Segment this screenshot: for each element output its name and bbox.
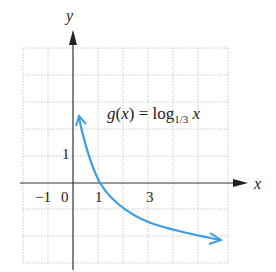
function-label: g(x) = log1/3 x (107, 104, 200, 125)
tick-label-1: 1 (95, 190, 103, 205)
log-curve (79, 118, 220, 240)
tick-label-neg1: −1 (35, 190, 51, 205)
func-body: ) = log (129, 104, 174, 123)
chart-canvas (0, 0, 276, 272)
func-base: 1/3 (174, 113, 188, 125)
func-name: g (107, 104, 116, 123)
func-arg: x (193, 104, 201, 123)
tick-label-3: 3 (146, 190, 154, 205)
x-axis-label: x (254, 176, 261, 192)
x-axis-arrow-icon (233, 179, 248, 187)
func-var: x (121, 104, 129, 123)
y-axis-arrow-icon (69, 30, 77, 45)
grid (23, 48, 228, 263)
y-axis-label: y (66, 8, 73, 24)
tick-label-y1: 1 (62, 147, 70, 162)
tick-label-0: 0 (61, 190, 69, 205)
